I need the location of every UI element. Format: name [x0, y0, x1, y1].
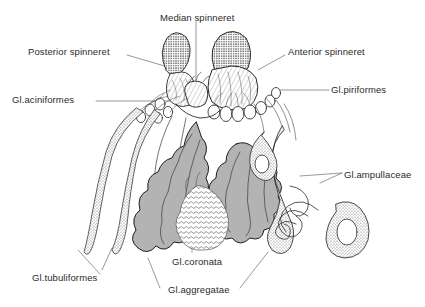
label-gl-piriformes: Gl.piriformes: [331, 84, 386, 95]
label-posterior-spinneret: Posterior spinneret: [28, 46, 110, 57]
anterior-spinneret: [208, 31, 258, 110]
label-gl-tubuliformes: Gl.tubuliformes: [32, 272, 97, 283]
label-median-spinneret: Median spinneret: [160, 12, 234, 23]
label-gl-coronata: Gl.coronata: [172, 256, 222, 267]
leader-posterior-spinneret: [127, 55, 168, 67]
spider-gland-diagram: Median spinneret Posterior spinneret Ant…: [0, 0, 425, 307]
leader-gl-aggregatae-right: [240, 252, 268, 288]
spinneret-cluster: [136, 31, 280, 123]
leader-gl-tubuliformes-b: [102, 248, 112, 270]
label-anterior-spinneret: Anterior spinneret: [288, 46, 365, 57]
label-gl-ampullaceae: Gl.ampullaceae: [344, 169, 411, 180]
leader-gl-aggregatae-left: [148, 258, 160, 288]
leader-anterior-spinneret: [258, 55, 285, 70]
label-gl-aciniformes: Gl.aciniformes: [12, 94, 74, 105]
label-gl-aggregatae: Gl.aggregatae: [168, 284, 230, 295]
